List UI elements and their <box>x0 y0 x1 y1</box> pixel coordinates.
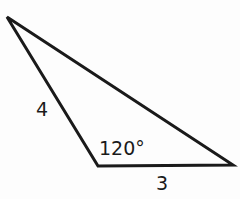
triangle-diagram: 4 120° 3 <box>0 0 240 199</box>
side-label-left: 4 <box>36 100 48 119</box>
angle-label: 120° <box>99 139 145 158</box>
side-label-bottom: 3 <box>156 174 168 193</box>
